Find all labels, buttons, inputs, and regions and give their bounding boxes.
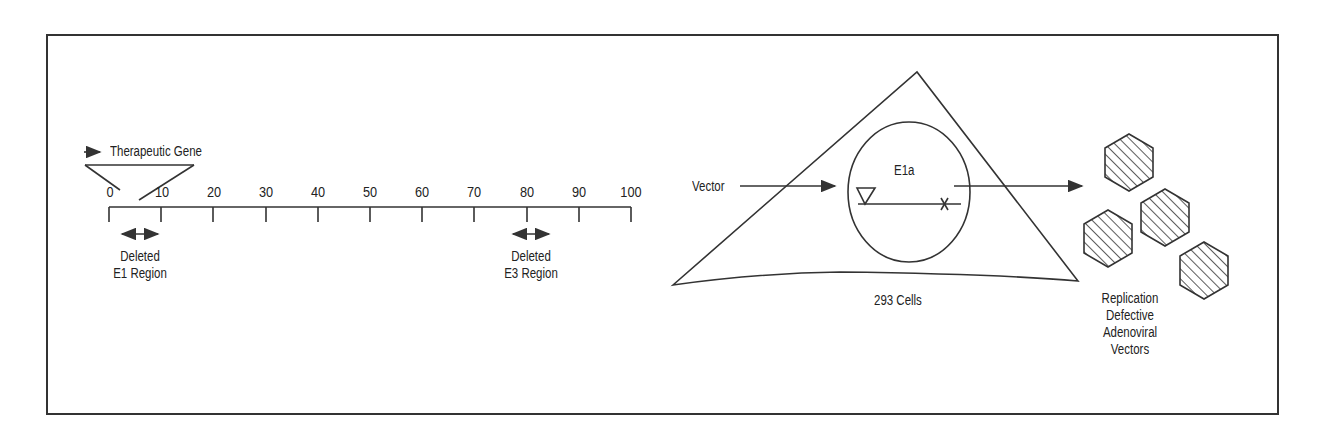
virion-hexagon-1 <box>1105 134 1153 191</box>
scale-tick-label: 90 <box>562 183 596 200</box>
scale-tick-label: 0 <box>93 183 127 200</box>
vector-label: Vector <box>692 178 725 194</box>
therapeutic-gene-label: Therapeutic Gene <box>110 143 202 159</box>
scale-tick-label: 10 <box>145 183 179 200</box>
virion-hexagon-3 <box>1084 210 1132 267</box>
scale-tick-label: 50 <box>353 183 387 200</box>
insertion-triangle-icon <box>857 188 875 204</box>
deleted-e3-label: Deleted E3 Region <box>490 248 572 282</box>
scale-tick-label: 80 <box>510 183 544 200</box>
scale-tick-label: 40 <box>301 183 335 200</box>
scale-tick-label: 100 <box>614 183 648 200</box>
diagram-graphics <box>0 0 1331 428</box>
product-label: Replication Defective Adenoviral Vectors <box>1089 290 1171 358</box>
scale-tick-label: 20 <box>197 183 231 200</box>
nucleus-circle <box>848 122 970 262</box>
cell-type-label: 293 Cells <box>874 292 922 308</box>
genome-scale-axis <box>109 207 631 222</box>
scale-tick-label: 60 <box>405 183 439 200</box>
nuclear-dna-line <box>857 188 961 210</box>
deleted-e1-label: Deleted E1 Region <box>99 248 181 282</box>
cell-outline <box>673 72 1078 285</box>
virion-hexagon-4 <box>1180 242 1228 299</box>
e1a-label: E1a <box>894 162 914 178</box>
scale-tick-label: 30 <box>249 183 283 200</box>
virion-hexagon-2 <box>1141 189 1189 246</box>
scale-tick-label: 70 <box>457 183 491 200</box>
